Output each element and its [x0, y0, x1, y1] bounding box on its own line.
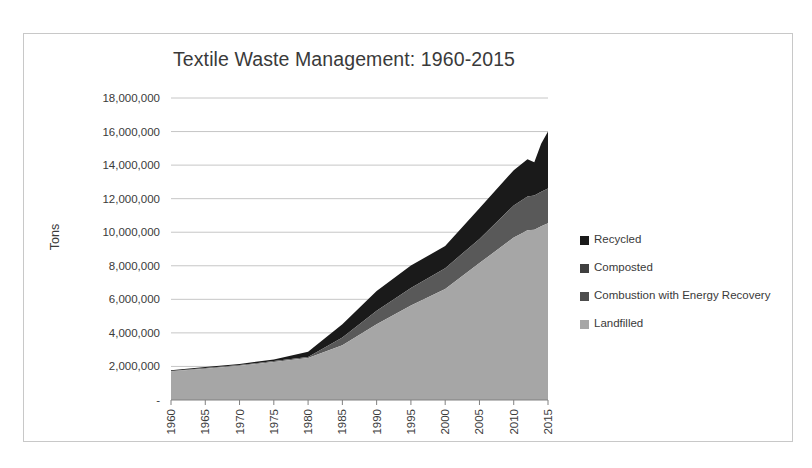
legend-swatch-icon — [580, 236, 589, 245]
y-tick-label: 2,000,000 — [109, 360, 160, 372]
x-tick-label: 1985 — [336, 409, 348, 435]
legend-item[interactable]: Combustion with Energy Recovery — [580, 289, 810, 303]
legend-swatch-icon — [580, 320, 589, 329]
y-tick-label: - — [156, 394, 160, 406]
y-tick-label: 10,000,000 — [102, 226, 160, 238]
legend-item-label: Landfilled — [594, 318, 643, 330]
legend-item-label: Combustion with Energy Recovery — [594, 290, 770, 302]
x-tick-label: 2010 — [508, 409, 520, 435]
legend-item[interactable]: Composted — [580, 261, 810, 275]
x-tick-label: 2000 — [439, 409, 451, 435]
legend-item[interactable]: Landfilled — [580, 317, 810, 331]
legend-swatch-icon — [580, 292, 589, 301]
x-tick-label: 2005 — [473, 409, 485, 435]
x-tick-label: 1990 — [371, 409, 383, 435]
legend-item-label: Composted — [594, 262, 653, 274]
y-tick-label: 4,000,000 — [109, 327, 160, 339]
y-tick-label: 6,000,000 — [109, 293, 160, 305]
legend-swatch-icon — [580, 264, 589, 273]
x-axis-ticks: 1960196519701975198019851990199520002005… — [165, 400, 554, 435]
x-tick-label: 1995 — [405, 409, 417, 435]
legend-item-label: Recycled — [594, 234, 641, 246]
x-tick-label: 1975 — [268, 409, 280, 435]
y-tick-label: 14,000,000 — [102, 159, 160, 171]
legend-item[interactable]: Recycled — [580, 233, 810, 247]
y-tick-label: 18,000,000 — [102, 92, 160, 104]
chart-legend: RecycledCompostedCombustion with Energy … — [580, 233, 810, 345]
x-tick-label: 1965 — [199, 409, 211, 435]
chart-frame: Textile Waste Management: 1960-2015 Tons… — [23, 33, 793, 442]
x-tick-label: 1980 — [302, 409, 314, 435]
x-tick-label: 2015 — [542, 409, 554, 435]
x-tick-label: 1960 — [165, 409, 177, 435]
y-tick-label: 16,000,000 — [102, 126, 160, 138]
x-tick-label: 1970 — [234, 409, 246, 435]
y-tick-label: 8,000,000 — [109, 260, 160, 272]
y-tick-label: 12,000,000 — [102, 193, 160, 205]
